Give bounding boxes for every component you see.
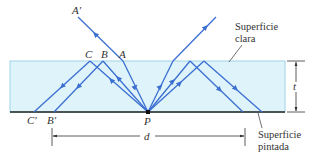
clear-surface-leader: [229, 45, 242, 62]
diagram: A′ C B A C′ B′ P d t Superficie clara Su…: [0, 0, 313, 163]
label-c-prime: C′: [27, 114, 37, 126]
label-c: C: [85, 48, 93, 60]
clear-surface-label-1: Superficie: [235, 21, 278, 32]
label-b-prime: B′: [47, 114, 57, 126]
label-a: A: [118, 48, 126, 60]
painted-surface-label-1: Superficie: [258, 129, 301, 140]
label-d: d: [144, 130, 150, 142]
painted-surface-label-2: pintada: [258, 141, 289, 152]
glass-slab: [10, 61, 285, 112]
label-p: P: [143, 115, 151, 127]
point-p: [146, 110, 150, 114]
clear-surface-label-2: clara: [235, 33, 256, 44]
painted-surface-leader: [258, 113, 262, 128]
label-b: B: [101, 48, 108, 60]
label-a-prime: A′: [71, 4, 82, 16]
